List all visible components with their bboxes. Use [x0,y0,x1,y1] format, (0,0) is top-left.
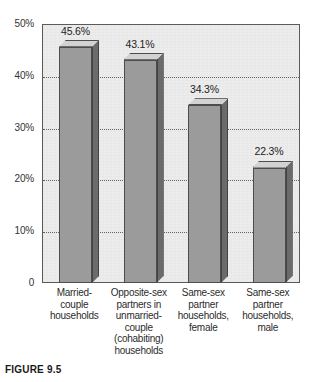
category-label-line: households, [233,310,304,322]
y-axis: 50%40%30%20%10%0 [0,24,38,283]
category-label-line: partners in [104,299,175,311]
plot-area [42,24,300,283]
category-label: Same-sexpartnerhouseholds,male [233,287,304,333]
y-tick-label: 40% [15,71,34,81]
figure-9-5: 50%40%30%20%10%0 45.6%43.1%34.3%22.3% Ma… [0,0,313,382]
gridline [43,77,299,78]
gridline [43,232,299,233]
category-label: Same-sexpartnerhouseholds,female [168,287,239,333]
category-label-line: Opposite-sex [104,287,175,299]
category-label-line: couple [39,299,110,311]
category-label-line: Married- [39,287,110,299]
y-tick-label: 20% [15,174,34,184]
category-label: Married-couplehouseholds [39,287,110,322]
y-tick-label: 30% [15,123,34,133]
gridline [43,180,299,181]
category-label-line: unmarried- [104,310,175,322]
figure-caption: FIGURE 9.5 [5,364,61,375]
category-label-line: couple [104,322,175,334]
y-tick-label: 0 [29,278,34,288]
category-label-line: households, [168,310,239,322]
category-label-line: (cohabiting) [104,333,175,345]
x-axis-category-labels: Married-couplehouseholdsOpposite-sexpart… [42,287,300,379]
y-tick-label: 50% [15,19,34,29]
category-label-line: female [168,322,239,334]
category-label-line: male [233,322,304,334]
category-label-line: Same-sex [233,287,304,299]
category-label-line: partner [233,299,304,311]
category-label-line: households [39,310,110,322]
category-label-line: Same-sex [168,287,239,299]
gridline [43,129,299,130]
category-label: Opposite-sexpartners inunmarried-couple(… [104,287,175,356]
category-label-line: households [104,345,175,357]
y-tick-label: 10% [15,226,34,236]
category-label-line: partner [168,299,239,311]
